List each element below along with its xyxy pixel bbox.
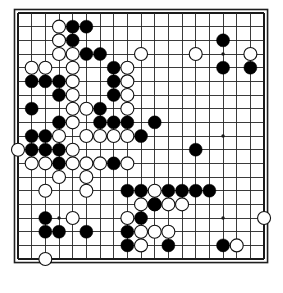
go-board-container [0, 0, 283, 293]
black-stone[interactable] [135, 184, 148, 197]
black-stone[interactable] [53, 89, 66, 102]
white-stone[interactable] [53, 48, 66, 61]
white-stone[interactable] [80, 184, 93, 197]
white-stone[interactable] [80, 157, 93, 170]
white-stone[interactable] [66, 102, 79, 115]
white-stone[interactable] [66, 212, 79, 225]
white-stone[interactable] [121, 102, 134, 115]
white-stone[interactable] [148, 225, 161, 238]
black-stone[interactable] [66, 20, 79, 33]
black-stone[interactable] [39, 130, 52, 143]
black-stone[interactable] [217, 34, 230, 47]
black-stone[interactable] [94, 116, 107, 129]
black-stone[interactable] [39, 75, 52, 88]
white-stone[interactable] [135, 48, 148, 61]
black-stone[interactable] [39, 143, 52, 156]
white-stone[interactable] [66, 61, 79, 74]
white-stone[interactable] [176, 198, 189, 211]
white-stone[interactable] [94, 157, 107, 170]
white-stone[interactable] [135, 198, 148, 211]
black-stone[interactable] [189, 184, 202, 197]
white-stone[interactable] [66, 157, 79, 170]
black-stone[interactable] [121, 116, 134, 129]
black-stone[interactable] [25, 102, 38, 115]
white-stone[interactable] [162, 198, 175, 211]
black-stone[interactable] [203, 184, 216, 197]
black-stone[interactable] [189, 143, 202, 156]
white-stone[interactable] [25, 157, 38, 170]
black-stone[interactable] [39, 212, 52, 225]
black-stone[interactable] [148, 198, 161, 211]
black-stone[interactable] [94, 102, 107, 115]
black-stone[interactable] [25, 130, 38, 143]
white-stone[interactable] [39, 184, 52, 197]
star-point [221, 134, 224, 137]
black-stone[interactable] [53, 116, 66, 129]
black-stone[interactable] [25, 75, 38, 88]
black-stone[interactable] [135, 212, 148, 225]
black-stone[interactable] [80, 20, 93, 33]
black-stone[interactable] [53, 143, 66, 156]
black-stone[interactable] [53, 225, 66, 238]
white-stone[interactable] [107, 130, 120, 143]
white-stone[interactable] [53, 34, 66, 47]
white-stone[interactable] [162, 225, 175, 238]
white-stone[interactable] [258, 212, 271, 225]
black-stone[interactable] [217, 239, 230, 252]
white-stone[interactable] [80, 130, 93, 143]
black-stone[interactable] [94, 48, 107, 61]
white-stone[interactable] [121, 89, 134, 102]
black-stone[interactable] [66, 34, 79, 47]
white-stone[interactable] [53, 130, 66, 143]
black-stone[interactable] [107, 116, 120, 129]
black-stone[interactable] [244, 61, 257, 74]
white-stone[interactable] [121, 75, 134, 88]
black-stone[interactable] [53, 157, 66, 170]
black-stone[interactable] [121, 239, 134, 252]
white-stone[interactable] [39, 253, 52, 266]
white-stone[interactable] [80, 102, 93, 115]
white-stone[interactable] [230, 239, 243, 252]
black-stone[interactable] [80, 225, 93, 238]
black-stone[interactable] [176, 184, 189, 197]
white-stone[interactable] [94, 130, 107, 143]
white-stone[interactable] [121, 130, 134, 143]
black-stone[interactable] [107, 75, 120, 88]
black-stone[interactable] [25, 143, 38, 156]
white-stone[interactable] [80, 171, 93, 184]
black-stone[interactable] [162, 184, 175, 197]
white-stone[interactable] [66, 116, 79, 129]
white-stone[interactable] [121, 212, 134, 225]
white-stone[interactable] [66, 75, 79, 88]
white-stone[interactable] [135, 225, 148, 238]
white-stone[interactable] [12, 143, 25, 156]
black-stone[interactable] [107, 89, 120, 102]
black-stone[interactable] [80, 48, 93, 61]
star-point [221, 216, 224, 219]
go-board[interactable] [0, 0, 283, 293]
black-stone[interactable] [121, 184, 134, 197]
white-stone[interactable] [121, 61, 134, 74]
white-stone[interactable] [39, 61, 52, 74]
white-stone[interactable] [66, 143, 79, 156]
white-stone[interactable] [53, 20, 66, 33]
black-stone[interactable] [121, 225, 134, 238]
black-stone[interactable] [53, 75, 66, 88]
white-stone[interactable] [148, 184, 161, 197]
black-stone[interactable] [162, 239, 175, 252]
white-stone[interactable] [121, 157, 134, 170]
white-stone[interactable] [135, 239, 148, 252]
black-stone[interactable] [39, 225, 52, 238]
black-stone[interactable] [217, 61, 230, 74]
white-stone[interactable] [66, 89, 79, 102]
white-stone[interactable] [189, 48, 202, 61]
white-stone[interactable] [66, 48, 79, 61]
black-stone[interactable] [135, 130, 148, 143]
white-stone[interactable] [39, 157, 52, 170]
white-stone[interactable] [53, 171, 66, 184]
black-stone[interactable] [107, 61, 120, 74]
black-stone[interactable] [107, 157, 120, 170]
white-stone[interactable] [244, 48, 257, 61]
black-stone[interactable] [148, 116, 161, 129]
white-stone[interactable] [25, 61, 38, 74]
